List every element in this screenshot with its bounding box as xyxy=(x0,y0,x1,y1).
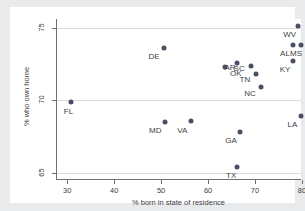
x-tick-label: 30 xyxy=(56,186,78,195)
y-tick-label: 75 xyxy=(37,18,46,36)
grid-line-y xyxy=(56,173,301,174)
x-tick-mark xyxy=(302,180,303,184)
point-label-al: AL xyxy=(280,49,290,58)
point-label-tx: TX xyxy=(226,171,236,180)
point-label-la: LA xyxy=(288,120,298,129)
scatter-point-fl[interactable] xyxy=(69,99,74,104)
y-axis-line xyxy=(56,19,57,179)
y-axis-title: % who own home xyxy=(22,57,31,137)
point-label-va: VA xyxy=(177,126,187,135)
scatter-point-ga[interactable] xyxy=(237,130,242,135)
y-tick-label: 70 xyxy=(37,91,46,109)
x-tick-label: 80 xyxy=(291,186,305,195)
y-tick-mark xyxy=(52,173,56,174)
x-tick-mark xyxy=(255,180,256,184)
graph-canvas: 657075 304050607080 % who own home % bor… xyxy=(10,7,295,203)
x-tick-mark xyxy=(161,180,162,184)
y-tick-mark xyxy=(52,28,56,29)
scatter-point-ms[interactable] xyxy=(299,43,304,48)
y-tick-mark xyxy=(52,100,56,101)
scatter-point-md[interactable] xyxy=(163,120,168,125)
x-tick-label: 40 xyxy=(103,186,125,195)
x-tick-mark xyxy=(208,180,209,184)
x-axis-line xyxy=(56,179,301,180)
plot-region xyxy=(56,19,301,179)
x-tick-label: 50 xyxy=(150,186,172,195)
point-label-md: MD xyxy=(149,126,161,135)
x-axis-title: % born in state of residence xyxy=(56,198,301,207)
scatter-point-va[interactable] xyxy=(189,118,194,123)
scatter-point-al[interactable] xyxy=(291,43,296,48)
scatter-point-tn[interactable] xyxy=(253,72,258,77)
scatter-point-nc[interactable] xyxy=(259,85,264,90)
point-label-wv: WV xyxy=(283,30,296,39)
y-tick-label: 65 xyxy=(37,164,46,182)
point-label-tn: TN xyxy=(240,75,251,84)
scatter-plot-figure: 657075 304050607080 % who own home % bor… xyxy=(0,0,305,211)
scatter-point-ok[interactable] xyxy=(248,63,253,68)
scatter-point-tx[interactable] xyxy=(235,165,240,170)
x-tick-mark xyxy=(114,180,115,184)
x-tick-label: 70 xyxy=(244,186,266,195)
grid-line-y xyxy=(56,28,301,29)
scatter-point-ky[interactable] xyxy=(291,59,296,64)
x-tick-mark xyxy=(67,180,68,184)
scatter-point-de[interactable] xyxy=(161,46,166,51)
point-label-fl: FL xyxy=(64,107,73,116)
point-label-ms: MS xyxy=(290,49,302,58)
point-label-ky: KY xyxy=(280,65,291,74)
scatter-point-wv[interactable] xyxy=(295,24,300,29)
grid-line-y xyxy=(56,100,301,101)
scatter-point-la[interactable] xyxy=(299,114,304,119)
point-label-de: DE xyxy=(148,52,159,61)
point-label-nc: NC xyxy=(244,89,256,98)
x-tick-label: 60 xyxy=(197,186,219,195)
point-label-ga: GA xyxy=(225,136,237,145)
